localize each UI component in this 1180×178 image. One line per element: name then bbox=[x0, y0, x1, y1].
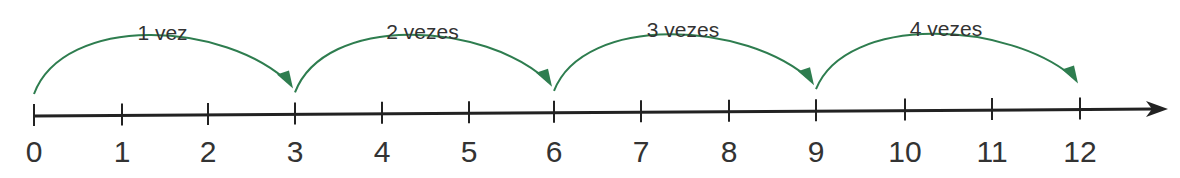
tick-label: 9 bbox=[808, 135, 825, 168]
jump-label: 2 vezes bbox=[386, 20, 458, 43]
jump-arcs bbox=[34, 34, 1078, 94]
tick-label: 7 bbox=[633, 135, 650, 168]
jump-arc bbox=[816, 34, 1076, 89]
number-line-diagram: 0123456789101112 1 vez2 vezes3 vezes4 ve… bbox=[0, 0, 1180, 178]
tick-label: 5 bbox=[461, 135, 478, 168]
jump-arc bbox=[295, 35, 550, 93]
jump-label: 4 vezes bbox=[910, 17, 982, 40]
jump-arc bbox=[554, 34, 812, 91]
tick-label: 10 bbox=[888, 135, 921, 168]
arrowhead-icon bbox=[1062, 66, 1078, 84]
jump-label: 3 vezes bbox=[647, 18, 719, 41]
jump-labels: 1 vez2 vezes3 vezes4 vezes bbox=[137, 17, 982, 45]
arrowhead-icon bbox=[798, 67, 814, 85]
tick-label: 3 bbox=[287, 135, 304, 168]
arrowhead-icon bbox=[536, 69, 552, 87]
tick-label: 0 bbox=[26, 135, 43, 168]
tick-label: 11 bbox=[976, 135, 1007, 168]
tick-label: 6 bbox=[546, 135, 563, 168]
tick-labels: 0123456789101112 bbox=[26, 135, 1097, 168]
tick-label: 8 bbox=[721, 135, 738, 168]
axis-line bbox=[34, 109, 1154, 116]
tick-label: 2 bbox=[200, 135, 217, 168]
number-line-axis bbox=[34, 101, 1168, 117]
tick-label: 4 bbox=[374, 135, 391, 168]
jump-label: 1 vez bbox=[137, 21, 187, 44]
tick-label: 1 bbox=[114, 135, 131, 168]
tick-label: 12 bbox=[1063, 135, 1096, 168]
